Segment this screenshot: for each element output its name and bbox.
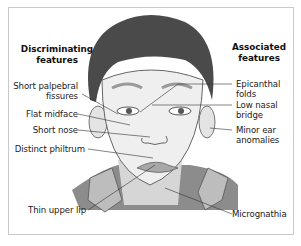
label-micrognathia: Micrognathia <box>232 209 287 219</box>
label-low-nasal-bridge: Low nasal bridge <box>236 100 278 120</box>
associated-features-heading: Associated features <box>226 42 292 64</box>
discriminating-features-heading: Discriminating features <box>20 44 94 66</box>
label-flat-midface: Flat midface <box>2 109 78 119</box>
label-short-palpebral-fissures: Short palpebral fissures <box>2 81 78 101</box>
label-distinct-philtrum: Distinct philtrum <box>2 144 85 154</box>
label-short-nose: Short nose <box>2 125 78 135</box>
label-thin-upper-lip: Thin upper lip <box>2 205 86 215</box>
label-epicanthal-folds: Epicanthal folds <box>236 79 280 99</box>
label-minor-ear-anomalies: Minor ear anomalies <box>236 125 279 145</box>
